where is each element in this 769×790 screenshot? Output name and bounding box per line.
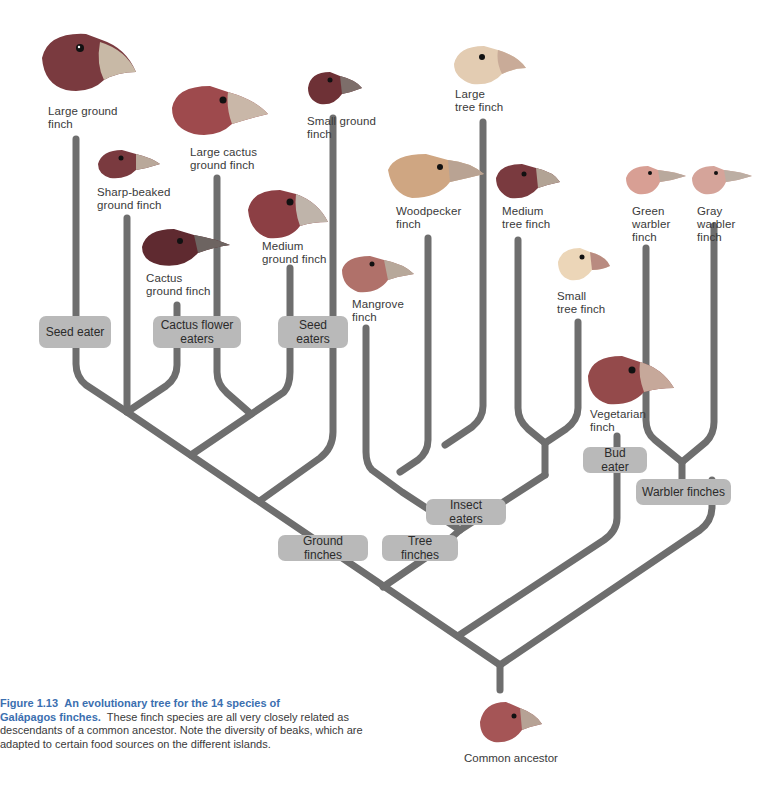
bird-medium-tree-finch (494, 162, 562, 200)
bird-small-ground-finch (306, 70, 364, 108)
figure-title-line1: An evolutionary tree for the 14 species … (64, 697, 280, 709)
bird-sharp-beaked-ground-finch (96, 148, 162, 182)
bird-woodpecker-finch (386, 152, 486, 200)
bird-cactus-ground-finch (140, 225, 232, 271)
species-label-large-tree-finch: Largetree finch (455, 88, 503, 114)
group-label-bud-eater: Bud eater (583, 447, 647, 473)
branch-small-tree (545, 322, 578, 443)
figure-title-line2: Galápagos finches. (0, 711, 101, 723)
figure-body-line1: These finch species are all very closely… (107, 711, 349, 723)
bird-medium-ground-finch (246, 186, 330, 242)
group-label-ground-finches: Ground finches (278, 535, 368, 561)
species-label-medium-tree-finch: Mediumtree finch (502, 205, 550, 231)
bird-large-tree-finch (452, 44, 528, 86)
species-label-medium-ground-finch: Mediumground finch (262, 240, 327, 266)
bird-green-warbler-finch (624, 164, 688, 198)
figure-caption: Figure 1.13 An evolutionary tree for the… (0, 697, 440, 751)
figure-body-line3: adapted to certain food sources on the d… (0, 738, 271, 750)
figure-body-line2: descendants of a common ancestor. Note t… (0, 724, 363, 736)
group-label-warbler-finches: Warbler finches (636, 479, 731, 505)
species-label-vegetarian-finch: Vegetarianfinch (590, 408, 646, 434)
group-label-seed-eater: Seed eater (39, 316, 111, 348)
species-label-green-warbler-finch: Greenwarblerfinch (632, 205, 670, 244)
group-label-insect-eaters: Insect eaters (426, 499, 506, 525)
species-label-woodpecker-finch: Woodpeckerfinch (396, 205, 461, 231)
bird-small-tree-finch (556, 246, 612, 284)
branch-gray-warbler (682, 226, 714, 462)
bird-large-cactus-ground-finch (170, 82, 270, 138)
branch-medium-tree (518, 240, 545, 443)
species-label-cactus-ground-finch: Cactusground finch (146, 272, 211, 298)
bird-mangrove-finch (340, 254, 416, 294)
species-label-small-tree-finch: Smalltree finch (557, 290, 605, 316)
figure-number: Figure 1.13 (0, 697, 58, 709)
branch-small-ground (261, 118, 333, 500)
species-label-large-ground-finch: Large groundfinch (48, 105, 118, 131)
group-label-tree-finches: Tree finches (382, 535, 458, 561)
species-label-mangrove-finch: Mangrovefinch (352, 298, 404, 324)
species-label-small-ground-finch: Small groundfinch (307, 115, 376, 141)
branch-warbler (500, 480, 712, 665)
root-label-common-ancestor: Common ancestor (464, 752, 558, 764)
species-label-sharp-beaked-ground-finch: Sharp-beakedground finch (97, 186, 170, 212)
group-label-seed-eaters: Seed eaters (278, 316, 348, 348)
species-label-large-cactus-ground-finch: Large cactusground finch (190, 146, 257, 172)
bird-common-ancestor (478, 700, 544, 746)
bird-gray-warbler-finch (690, 164, 754, 198)
bird-vegetarian-finch (586, 354, 676, 406)
bird-large-ground-finch (36, 28, 140, 98)
species-label-gray-warbler-finch: Graywarblerfinch (697, 205, 735, 244)
group-label-cactus-flower-eaters: Cactus flowereaters (153, 316, 241, 348)
